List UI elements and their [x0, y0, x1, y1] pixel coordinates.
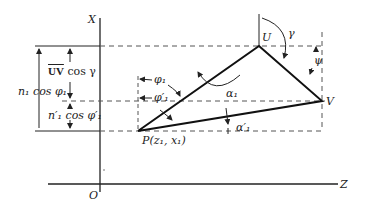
x-axis-label: X	[88, 14, 96, 25]
z-axis-label: Z	[340, 179, 348, 190]
gamma-label: γ	[288, 28, 295, 39]
point-p-label: P(z₁, x₁)	[142, 135, 186, 146]
uv-vector-label: UV	[48, 65, 64, 77]
origin-label: O	[89, 190, 98, 201]
phi1-label: φ₁	[154, 74, 166, 85]
point-u-label: U	[262, 32, 271, 43]
alpha1-prime-label: α′₁	[236, 122, 250, 133]
uv-suffix: cos γ	[64, 65, 96, 78]
uv-cos-gamma-label: UV cos γ	[48, 66, 96, 77]
n1prime-cos-phi1prime-label: n′₁ cos φ′₁	[48, 110, 102, 121]
n1-cos-phi1-label: n₁ cos φ₁	[18, 86, 67, 97]
alpha1-label: α₁	[226, 88, 238, 99]
point-v-label: V	[326, 96, 334, 107]
psi-label: ψ	[314, 55, 323, 66]
phi1-prime-label: φ′₁	[154, 92, 169, 103]
